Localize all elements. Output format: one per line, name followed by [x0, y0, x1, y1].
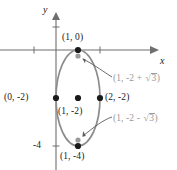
x-axis-label: x	[160, 56, 164, 66]
radical-lower-value: 3	[149, 113, 155, 124]
point-right	[97, 95, 103, 101]
point-label-right: (2, -2)	[105, 93, 129, 103]
annotation-lower-focus-prefix: (1, -2 -	[113, 113, 142, 123]
annotation-lower-focus-suffix: )	[155, 113, 158, 123]
focus-point-upper	[75, 53, 80, 58]
point-center	[75, 95, 81, 101]
y-axis-label: y	[43, 5, 47, 15]
point-top	[75, 47, 81, 53]
annotation-upper-focus-prefix: (1, -2 +	[113, 73, 145, 83]
point-label-bottom: (1, -4)	[60, 152, 84, 162]
annotation-lower-focus: (1, -2 - √3)	[113, 113, 158, 124]
point-label-center: (1, -2)	[58, 107, 82, 117]
point-left	[53, 95, 59, 101]
plot-canvas	[0, 0, 177, 170]
point-label-left: (0, -2)	[4, 93, 28, 103]
radical-upper-value: 3	[151, 73, 157, 84]
focus-point-lower	[75, 137, 80, 142]
point-label-top: (1, 0)	[62, 33, 83, 43]
y-tick-label-neg4: -4	[33, 141, 41, 151]
radical-lower: √3	[142, 113, 154, 124]
key-points	[53, 47, 103, 149]
point-bottom	[75, 143, 81, 149]
ellipse-graph-figure: y x -4 (1, 0) (0, -2) (1, -2) (2, -2) (1…	[0, 0, 177, 170]
annotation-upper-focus: (1, -2 + √3)	[113, 73, 160, 84]
annotation-upper-focus-suffix: )	[157, 73, 160, 83]
radical-upper: √3	[145, 73, 157, 84]
